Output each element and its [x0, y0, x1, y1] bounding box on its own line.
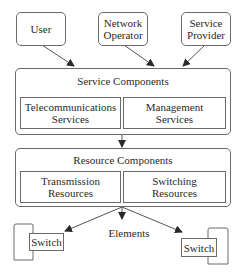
transmission-resources-box: Transmission Resources — [20, 171, 121, 203]
right-switch-label-box: Switch — [181, 238, 217, 257]
switching-resources-box: Switching Resources — [123, 171, 226, 203]
service-components-title: Service Components — [16, 75, 230, 87]
transmission-resources-label-1: Transmission — [21, 175, 120, 187]
transmission-resources-label-2: Resources — [21, 187, 120, 199]
management-services-label-1: Management — [124, 101, 225, 113]
switching-resources-label-1: Switching — [124, 175, 225, 187]
switching-resources-label-2: Resources — [124, 187, 225, 199]
left-switch-label-box: Switch — [29, 233, 64, 251]
telecommunications-services-label-2: Services — [21, 113, 120, 125]
actor-service-provider-label-1: Service — [182, 17, 230, 29]
arrow-operator-to-service — [124, 45, 154, 66]
actor-network-operator: Network Operator — [98, 12, 148, 46]
arrow-user-to-service — [42, 45, 74, 66]
telecommunications-services-label-1: Telecommunications — [21, 101, 120, 113]
resource-components-title: Resource Components — [16, 154, 230, 166]
resource-components-group: Resource Components Transmission Resourc… — [15, 148, 231, 207]
actor-network-operator-label-2: Operator — [99, 29, 147, 41]
telecommunications-services-box: Telecommunications Services — [20, 97, 121, 129]
left-switch-label: Switch — [30, 236, 63, 248]
management-services-box: Management Services — [123, 97, 226, 129]
actor-network-operator-label-1: Network — [99, 17, 147, 29]
actor-user-label: User — [17, 23, 65, 35]
elements-label: Elements — [100, 227, 158, 239]
actor-service-provider: Service Provider — [181, 12, 231, 46]
actor-service-provider-label-2: Provider — [182, 29, 230, 41]
arrow-provider-to-service — [183, 45, 205, 66]
right-switch-label: Switch — [182, 242, 216, 254]
management-services-label-2: Services — [124, 113, 225, 125]
actor-user: User — [16, 12, 66, 46]
service-components-group: Service Components Telecommunications Se… — [15, 68, 231, 135]
